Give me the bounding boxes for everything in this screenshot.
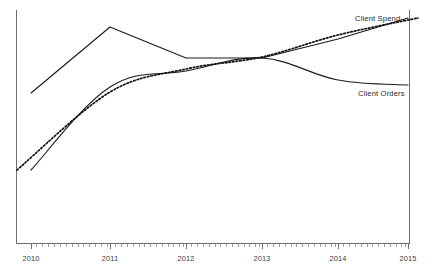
- series-label-client-spend: Client Spend: [355, 14, 400, 23]
- series-label-client-orders: Client Orders: [358, 89, 405, 98]
- chart-canvas: 2010 2011 2012 2013 2014 2015 Client Spe…: [0, 0, 436, 276]
- plot-axes: [17, 10, 410, 244]
- x-axis-minor-ticks: [37, 244, 406, 248]
- x-tick-label-2010: 2010: [22, 254, 39, 263]
- series-line-client-orders: [31, 58, 408, 170]
- x-tick-label-2011: 2011: [102, 254, 119, 263]
- x-tick-label-2013: 2013: [253, 254, 270, 263]
- x-tick-label-2014: 2014: [329, 254, 346, 263]
- x-tick-label-2015: 2015: [399, 254, 416, 263]
- x-tick-label-2012: 2012: [177, 254, 194, 263]
- line-chart: 2010 2011 2012 2013 2014 2015 Client Spe…: [0, 0, 436, 276]
- x-axis-major-ticks: [32, 244, 409, 250]
- x-axis-tick-labels: 2010 2011 2012 2013 2014 2015: [22, 254, 416, 263]
